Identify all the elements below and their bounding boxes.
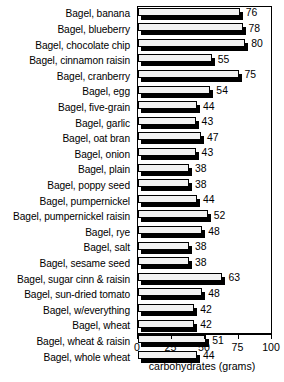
bar-series-container: 7678805575544443474338384452483838634842… [138,6,272,334]
x-tick [137,334,138,339]
bar[interactable] [138,320,194,328]
bar[interactable] [138,164,189,172]
bar-slot: 43 [138,115,272,131]
bar-slot: 78 [138,22,272,38]
bar-slot: 38 [138,178,272,194]
bar-value-label: 54 [216,85,228,96]
bar-value-label: 48 [208,288,220,299]
category-label: Bagel, sesame seed [0,258,134,269]
category-label: Bagel, rye [0,227,134,238]
bar-slot: 43 [138,146,272,162]
bar-value-label: 75 [245,69,257,80]
bar[interactable] [138,210,208,218]
x-tick [271,334,272,339]
category-label: Bagel, salt [0,242,134,253]
bar-slot: 54 [138,84,272,100]
bar-slot: 48 [138,225,272,241]
category-label: Bagel, onion [0,149,134,160]
bar-value-label: 78 [249,23,261,34]
bar-slot: 44 [138,193,272,209]
bar[interactable] [138,179,189,187]
bar-value-label: 52 [214,210,226,221]
bar-value-label: 76 [246,7,258,18]
category-label: Bagel, five-grain [0,102,134,113]
bar-slot: 48 [138,287,272,303]
bar[interactable] [138,288,202,296]
bar-slot: 42 [138,303,272,319]
bar-slot: 75 [138,68,272,84]
bar-slot: 38 [138,162,272,178]
bar-slot: 47 [138,131,272,147]
bar[interactable] [138,54,212,62]
category-label: Bagel, pumpernickel [0,196,134,207]
bar[interactable] [138,39,245,47]
category-label: Bagel, sun-dried tomato [0,289,134,300]
cut-off-title-sliver [196,0,272,4]
bar[interactable] [138,23,243,31]
x-tick [238,334,239,339]
bar[interactable] [138,86,210,94]
category-label: Bagel, blueberry [0,24,134,35]
category-label: Bagel, w/everything [0,305,134,316]
bar-slot: 63 [138,271,272,287]
category-label: Bagel, garlic [0,118,134,129]
bar-value-label: 38 [195,257,207,268]
category-label: Bagel, banana [0,8,134,19]
x-tick [204,334,205,339]
category-label: Bagel, wheat [0,320,134,331]
bar-value-label: 55 [218,54,230,65]
bar-value-label: 44 [203,194,215,205]
x-tick-label: 100 [254,341,284,353]
bar-slot: 38 [138,256,272,272]
x-tick-label: 50 [187,341,221,353]
bar[interactable] [138,257,189,265]
bar-slot: 80 [138,37,272,53]
category-label: Bagel, wheat & raisin [0,336,134,347]
bar-slot: 42 [138,318,272,334]
category-label: Bagel, pumpernickel raisin [0,211,134,222]
bar-value-label: 80 [251,38,263,49]
x-axis-title: carbohydrates (grams) [120,360,284,372]
bar[interactable] [138,8,240,16]
bar[interactable] [138,242,189,250]
bar[interactable] [138,148,196,156]
bar-slot: 52 [138,209,272,225]
x-tick-label: 25 [154,341,188,353]
category-label: Bagel, plain [0,164,134,175]
category-label: Bagel, egg [0,86,134,97]
bar-value-label: 38 [195,241,207,252]
bar-value-label: 42 [200,304,212,315]
bar-value-label: 43 [202,147,214,158]
bar[interactable] [138,304,194,312]
bar-value-label: 38 [195,179,207,190]
category-label: Bagel, whole wheat [0,352,134,363]
bar-value-label: 47 [207,132,219,143]
bar[interactable] [138,70,239,78]
category-label: Bagel, oat bran [0,133,134,144]
bar-value-label: 44 [203,101,215,112]
category-label: Bagel, cinnamon raisin [0,55,134,66]
category-label: Bagel, cranberry [0,71,134,82]
bar[interactable] [138,132,201,140]
bar-slot: 76 [138,6,272,22]
bar-value-label: 63 [228,272,240,283]
bar-value-label: 38 [195,163,207,174]
bar-slot: 44 [138,100,272,116]
bar-slot: 55 [138,53,272,69]
x-tick [171,334,172,339]
category-label: Bagel, poppy seed [0,180,134,191]
category-label: Bagel, chocolate chip [0,40,134,51]
bar[interactable] [138,195,197,203]
bar-value-label: 43 [202,116,214,127]
bar[interactable] [138,226,202,234]
bar[interactable] [138,273,222,281]
category-label: Bagel, sugar cinn & raisin [0,274,134,285]
bar[interactable] [138,117,196,125]
bar-chart: Bagel, bananaBagel, blueberryBagel, choc… [0,0,284,382]
bar-value-label: 48 [208,226,220,237]
x-tick-label: 75 [221,341,255,353]
x-tick-label: 0 [120,341,154,353]
bar[interactable] [138,101,197,109]
bar-value-label: 42 [200,319,212,330]
bar-slot: 38 [138,240,272,256]
